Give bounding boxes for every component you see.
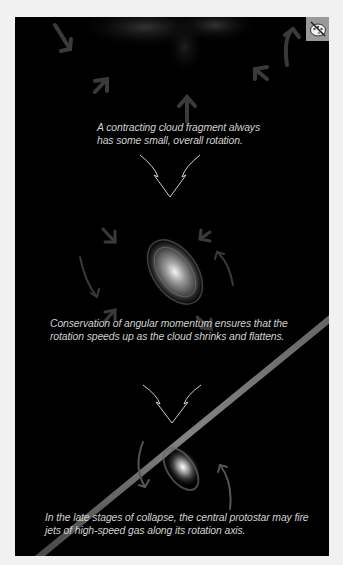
- rotating-cloud: [131, 224, 219, 319]
- protostar-disk: [157, 440, 209, 496]
- transition-arrow-2: [143, 385, 201, 423]
- transition-arrow-1: [140, 155, 200, 197]
- stage-3-caption: In the late stages of collapse, the cent…: [45, 511, 315, 537]
- cloud-fragment: [75, 17, 260, 77]
- stage-2-caption: Conservation of angular momentum ensures…: [50, 317, 320, 343]
- palette-slash-icon: [309, 21, 327, 37]
- collapse-illustration: [15, 17, 329, 556]
- figure-panel: A contracting cloud fragment always has …: [15, 17, 329, 556]
- stage-1-caption: A contracting cloud fragment always has …: [97, 121, 267, 147]
- color-toggle-button[interactable]: [306, 17, 329, 41]
